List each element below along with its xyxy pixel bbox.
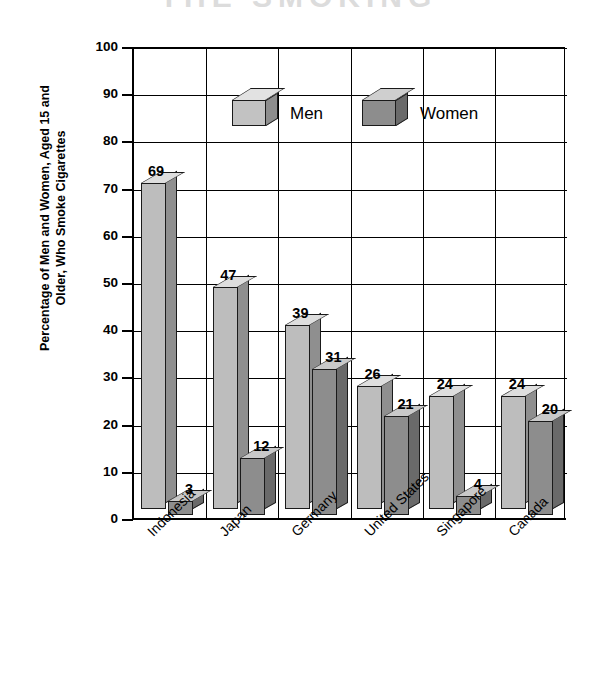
y-axis-tick-label-wrap: 70	[14, 182, 118, 195]
legend-cube-side	[396, 93, 408, 126]
legend-cube-face	[362, 100, 396, 126]
y-axis-tick-label: 10	[18, 465, 118, 478]
bar-men-indonesia[interactable]	[141, 183, 166, 509]
bar-side-face	[166, 171, 177, 503]
plot-area: 6934712393126212442420 Men Women	[132, 47, 565, 519]
grid-line-vertical	[206, 48, 207, 520]
y-axis-tick-label-wrap: 90	[14, 87, 118, 100]
y-axis-tick-label: 50	[18, 276, 118, 289]
legend-cube-men-icon	[232, 100, 266, 126]
bar-value-label: 39	[276, 306, 324, 321]
legend-label-women: Women	[420, 104, 478, 124]
y-axis-tick-label: 80	[18, 134, 118, 147]
y-axis-tick-label-wrap: 60	[14, 229, 118, 242]
y-axis-tick-label: 0	[18, 512, 118, 525]
y-axis-tick-label: 100	[18, 40, 118, 53]
grid-line-vertical	[351, 48, 352, 520]
y-axis-tick-label: 20	[18, 418, 118, 431]
y-axis-tick-label-wrap: 80	[14, 134, 118, 147]
title-text: THE SMOKING	[0, 0, 597, 10]
y-axis-tick-label-wrap: 30	[14, 370, 118, 383]
y-axis-tick-label: 40	[18, 323, 118, 336]
bar-value-label: 69	[132, 164, 180, 179]
bar-front-face	[141, 183, 166, 509]
y-axis-title: Percentage of Men and Women, Aged 15 and…	[37, 23, 69, 413]
y-axis-tick-label-wrap: 0	[14, 512, 118, 525]
y-axis-title-line-1: Percentage of Men and Women, Aged 15 and	[37, 23, 53, 413]
legend-cube-women-icon	[362, 100, 396, 126]
bar-value-label: 24	[493, 377, 541, 392]
cropped-title-banner: THE SMOKING	[0, 0, 597, 10]
y-axis-tick-label-wrap: 10	[14, 465, 118, 478]
y-axis-tick-label-wrap: 40	[14, 323, 118, 336]
bar-men-germany[interactable]	[285, 325, 310, 509]
y-axis-tick-label: 70	[18, 182, 118, 195]
legend-label-men: Men	[290, 104, 323, 124]
grid-line-vertical	[495, 48, 496, 520]
y-axis-tick-label-wrap: 20	[14, 418, 118, 431]
y-axis-title-line-2: Older, Who Smoke Cigarettes	[53, 23, 69, 413]
bar-value-label: 24	[421, 377, 469, 392]
bar-value-label: 26	[349, 367, 397, 382]
bar-value-label: 20	[526, 402, 574, 417]
x-axis-baseline	[132, 518, 566, 520]
bar-front-face	[285, 325, 310, 509]
bar-value-label: 47	[204, 268, 252, 283]
y-axis-tick-label: 90	[18, 87, 118, 100]
legend-cube-side	[266, 93, 278, 126]
y-axis-tick-label: 60	[18, 229, 118, 242]
y-axis-tick-label: 30	[18, 370, 118, 383]
legend-cube-face	[232, 100, 266, 126]
bar-value-label: 21	[382, 397, 430, 412]
y-axis-tick-label-wrap: 100	[14, 40, 118, 53]
bar-value-label: 31	[309, 350, 357, 365]
y-axis-tick-label-wrap: 50	[14, 276, 118, 289]
